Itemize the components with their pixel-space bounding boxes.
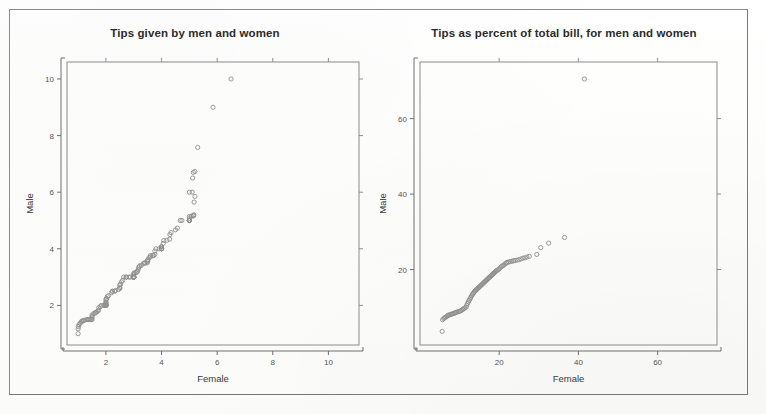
data-point [582, 77, 586, 81]
chart-panel-right: Tips as percent of total bill, for men a… [380, 9, 748, 395]
y-tick-label-60: 60 [398, 115, 407, 124]
x-axis-title: Female [553, 373, 585, 384]
y-tick-label-8: 8 [50, 132, 55, 141]
chart-panel-left: Tips given by men and women 246810Female… [10, 9, 380, 395]
data-point [76, 332, 80, 336]
plot-box [420, 62, 717, 345]
x-tick-label-60: 60 [653, 358, 662, 367]
x-tick-label-40: 40 [574, 358, 583, 367]
data-point [211, 105, 215, 109]
y-tick-label-20: 20 [398, 266, 407, 275]
data-point [193, 194, 197, 198]
x-axis-title: Female [197, 373, 229, 384]
data-point [229, 77, 233, 81]
x-tick-label-2: 2 [104, 358, 109, 367]
x-tick-label-20: 20 [495, 358, 504, 367]
data-point-group [440, 77, 586, 334]
data-point [192, 200, 196, 204]
y-tick-label-40: 40 [398, 190, 407, 199]
data-point [196, 145, 200, 149]
data-point [191, 176, 195, 180]
data-point [562, 235, 566, 239]
y-tick-label-4: 4 [50, 245, 55, 254]
y-tick-label-6: 6 [50, 188, 55, 197]
data-point [547, 241, 551, 245]
data-point [440, 329, 444, 333]
x-tick-label-4: 4 [159, 358, 164, 367]
scatter-plot-left: 246810Female246810Male [10, 9, 380, 395]
y-tick-label-10: 10 [45, 75, 54, 84]
y-axis-title: Male [24, 193, 35, 214]
y-axis-title: Male [380, 193, 388, 214]
scanned-page: Tips given by men and women 246810Female… [0, 0, 766, 414]
data-point-group [76, 77, 233, 336]
x-tick-label-8: 8 [271, 358, 276, 367]
plot-box [67, 62, 359, 345]
x-tick-label-6: 6 [215, 358, 220, 367]
scatter-plot-right: 204060Female204060Male [380, 9, 748, 395]
data-point [535, 252, 539, 256]
x-tick-label-10: 10 [324, 358, 333, 367]
data-point [190, 190, 194, 194]
y-tick-label-2: 2 [50, 301, 55, 310]
data-point [539, 246, 543, 250]
